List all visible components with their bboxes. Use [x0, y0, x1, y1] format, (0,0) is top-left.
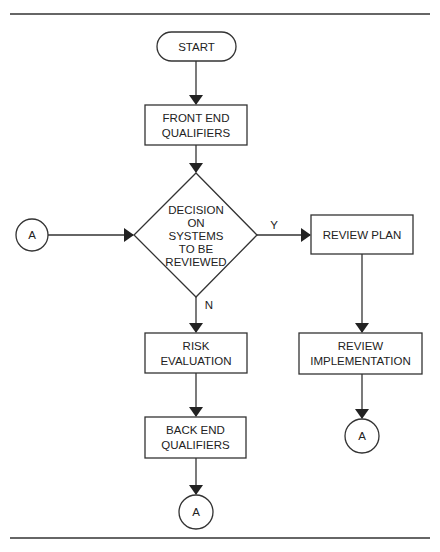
review-plan-label: REVIEW PLAN [323, 229, 402, 241]
start-label: START [178, 41, 215, 53]
review-implementation-box: REVIEW IMPLEMENTATION [299, 333, 422, 374]
decision-diamond: DECISION ON SYSTEMS TO BE REVIEWED [134, 173, 257, 297]
risk-evaluation-box: RISK EVALUATION [145, 333, 247, 373]
risk-eval-label-1: RISK [183, 340, 210, 352]
decision-label-1: DECISION [168, 204, 224, 216]
no-label: N [205, 299, 213, 311]
review-impl-label-2: IMPLEMENTATION [310, 355, 411, 367]
connector-a-input-label: A [28, 229, 36, 241]
connector-a-bottom-label: A [192, 506, 200, 518]
front-end-label-1: FRONT END [163, 112, 230, 124]
risk-eval-label-2: EVALUATION [160, 355, 231, 367]
yes-label: Y [270, 219, 278, 231]
front-end-label-2: QUALIFIERS [162, 127, 231, 139]
connector-a-input: A [16, 219, 48, 251]
decision-label-5: REVIEWED [165, 256, 226, 268]
front-end-qualifiers-box: FRONT END QUALIFIERS [145, 105, 247, 145]
back-end-label-2: QUALIFIERS [161, 439, 230, 451]
start-terminator: START [157, 32, 236, 61]
decision-label-2: ON [187, 217, 204, 229]
connector-a-right-label: A [358, 430, 366, 442]
review-impl-label-1: REVIEW [338, 340, 384, 352]
connector-a-bottom: A [179, 495, 213, 529]
back-end-label-1: BACK END [166, 424, 225, 436]
back-end-qualifiers-box: BACK END QUALIFIERS [145, 417, 246, 458]
review-plan-box: REVIEW PLAN [311, 215, 413, 254]
connector-a-right: A [345, 419, 379, 453]
decision-label-4: TO BE [179, 243, 214, 255]
flowchart: START FRONT END QUALIFIERS DECISION ON S… [0, 0, 440, 552]
decision-label-3: SYSTEMS [169, 230, 224, 242]
